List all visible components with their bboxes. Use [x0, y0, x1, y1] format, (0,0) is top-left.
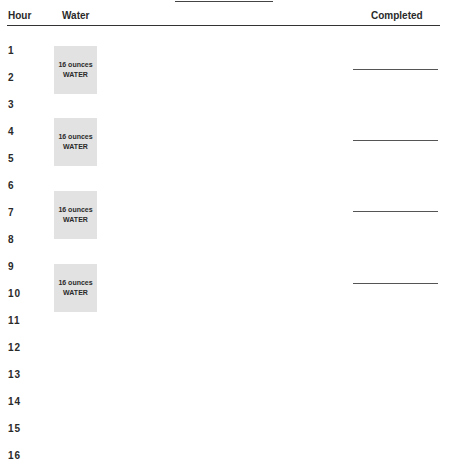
water-box: 16 ounces WATER	[54, 191, 97, 239]
hour-label: 14	[8, 396, 28, 407]
water-label: WATER	[63, 288, 88, 298]
hour-label: 12	[8, 342, 28, 353]
water-amount: 16 ounces	[58, 60, 92, 70]
completed-checkoff-line[interactable]	[353, 140, 438, 141]
water-box: 16 ounces WATER	[54, 46, 97, 94]
hour-label: 7	[8, 207, 28, 218]
water-label: WATER	[63, 70, 88, 80]
hour-label: 1	[8, 45, 28, 56]
column-header-completed: Completed	[371, 10, 423, 21]
hour-label: 11	[8, 315, 28, 326]
hour-label: 2	[8, 72, 28, 83]
hour-label: 9	[8, 261, 28, 272]
hour-label: 6	[8, 180, 28, 191]
title-blank-line	[175, 1, 273, 2]
hour-label: 3	[8, 99, 28, 110]
water-amount: 16 ounces	[58, 278, 92, 288]
column-header-hour: Hour	[8, 10, 31, 21]
hour-label: 5	[8, 153, 28, 164]
completed-checkoff-line[interactable]	[353, 69, 438, 70]
completed-checkoff-line[interactable]	[353, 211, 438, 212]
water-amount: 16 ounces	[58, 205, 92, 215]
hour-label: 16	[8, 450, 28, 461]
water-label: WATER	[63, 215, 88, 225]
hour-label: 8	[8, 234, 28, 245]
hour-label: 13	[8, 369, 28, 380]
hour-label: 10	[8, 288, 28, 299]
column-header-water: Water	[62, 10, 89, 21]
water-amount: 16 ounces	[58, 132, 92, 142]
water-box: 16 ounces WATER	[54, 264, 97, 312]
completed-checkoff-line[interactable]	[353, 283, 438, 284]
hour-label: 15	[8, 423, 28, 434]
water-label: WATER	[63, 142, 88, 152]
water-box: 16 ounces WATER	[54, 118, 97, 166]
hour-label: 4	[8, 126, 28, 137]
header-divider	[7, 25, 440, 26]
